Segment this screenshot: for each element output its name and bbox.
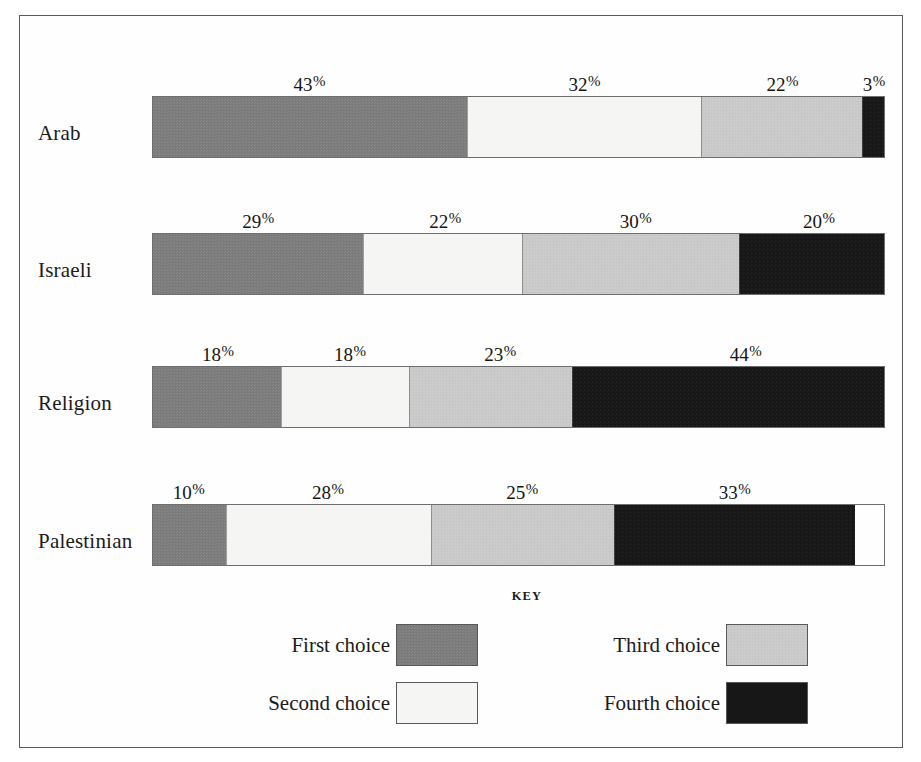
- bar-segment: [153, 505, 226, 565]
- segment-value-label: 30%: [620, 207, 652, 233]
- legend-color-swatch: [726, 682, 808, 724]
- segment-value-number: 25: [506, 482, 525, 503]
- percent-sign: %: [873, 73, 886, 89]
- segment-divider: [739, 234, 740, 294]
- bar-row-label: Religion: [38, 390, 148, 416]
- bar-segment: [153, 97, 467, 157]
- segment-value-number: 18: [202, 344, 221, 365]
- legend-item[interactable]: Third choice: [0, 624, 921, 666]
- percent-sign: %: [738, 481, 751, 497]
- chart-figure: Arab43%32%22%3%Israeli29%22%30%20%Religi…: [0, 0, 921, 762]
- bar-segment: [431, 505, 614, 565]
- legend-color-swatch: [726, 624, 808, 666]
- segment-value-number: 3: [863, 74, 873, 95]
- segment-value-label: 25%: [506, 478, 538, 504]
- percent-sign: %: [192, 481, 205, 497]
- segment-value-number: 18: [334, 344, 353, 365]
- segment-value-number: 30: [620, 211, 639, 232]
- segment-value-label: 3%: [863, 70, 886, 96]
- segment-divider: [409, 367, 410, 427]
- segment-divider: [467, 97, 468, 157]
- percent-sign: %: [262, 210, 275, 226]
- legend-item-label: Third choice: [613, 631, 720, 659]
- value-label-layer: 18%18%23%44%: [152, 340, 885, 368]
- segment-value-label: 22%: [429, 207, 461, 233]
- segment-value-label: 23%: [484, 340, 516, 366]
- segment-value-number: 44: [730, 344, 749, 365]
- percent-sign: %: [823, 210, 836, 226]
- percent-sign: %: [353, 343, 366, 359]
- percent-sign: %: [504, 343, 517, 359]
- bar-row-label: Palestinian: [38, 528, 148, 554]
- percent-sign: %: [786, 73, 799, 89]
- stacked-bar: [152, 96, 885, 158]
- segment-divider: [572, 367, 573, 427]
- segment-value-number: 10: [173, 482, 192, 503]
- bar-segment: [363, 234, 522, 294]
- percent-sign: %: [526, 481, 539, 497]
- bar-segment: [153, 234, 363, 294]
- segment-value-label: 10%: [173, 478, 205, 504]
- value-label-layer: 29%22%30%20%: [152, 207, 885, 235]
- segment-value-label: 28%: [312, 478, 344, 504]
- segment-value-label: 32%: [568, 70, 600, 96]
- segment-value-number: 28: [312, 482, 331, 503]
- segment-value-label: 43%: [294, 70, 326, 96]
- segment-divider: [862, 97, 863, 157]
- segment-value-number: 29: [242, 211, 261, 232]
- bar-row-label: Israeli: [38, 257, 148, 283]
- bar-segment: [522, 234, 739, 294]
- bar-segment: [153, 367, 281, 427]
- bar-segment: [862, 97, 884, 157]
- segment-divider: [614, 505, 615, 565]
- segment-divider: [701, 97, 702, 157]
- bar-row-label: Arab: [38, 120, 148, 146]
- stacked-bar: [152, 366, 885, 428]
- segment-value-label: 18%: [202, 340, 234, 366]
- segment-value-label: 22%: [766, 70, 798, 96]
- bar-segment: [572, 367, 884, 427]
- percent-sign: %: [313, 73, 326, 89]
- stacked-bar: [152, 233, 885, 295]
- segment-value-number: 22: [766, 74, 785, 95]
- key-title: KEY: [487, 589, 567, 604]
- legend-item-label: Fourth choice: [604, 689, 720, 717]
- bar-segment: [226, 505, 431, 565]
- legend-item[interactable]: Fourth choice: [0, 682, 921, 724]
- segment-divider: [226, 505, 227, 565]
- stacked-bar: [152, 504, 885, 566]
- segment-value-label: 33%: [719, 478, 751, 504]
- segment-value-label: 18%: [334, 340, 366, 366]
- segment-value-number: 32: [568, 74, 587, 95]
- segment-value-label: 29%: [242, 207, 274, 233]
- segment-value-label: 20%: [803, 207, 835, 233]
- bar-segment: [467, 97, 701, 157]
- segment-value-number: 22: [429, 211, 448, 232]
- percent-sign: %: [221, 343, 234, 359]
- segment-value-number: 20: [803, 211, 822, 232]
- bar-segment: [701, 97, 862, 157]
- segment-value-label: 44%: [730, 340, 762, 366]
- percent-sign: %: [331, 481, 344, 497]
- percent-sign: %: [639, 210, 652, 226]
- bar-segment: [409, 367, 572, 427]
- bar-segment: [614, 505, 855, 565]
- percent-sign: %: [749, 343, 762, 359]
- segment-divider: [431, 505, 432, 565]
- bar-segment: [281, 367, 409, 427]
- bar-segment: [739, 234, 884, 294]
- percent-sign: %: [449, 210, 462, 226]
- segment-divider: [281, 367, 282, 427]
- segment-value-number: 23: [484, 344, 503, 365]
- value-label-layer: 10%28%25%33%: [152, 478, 885, 506]
- segment-value-number: 33: [719, 482, 738, 503]
- segment-divider: [363, 234, 364, 294]
- segment-value-number: 43: [294, 74, 313, 95]
- value-label-layer: 43%32%22%3%: [152, 70, 885, 98]
- percent-sign: %: [588, 73, 601, 89]
- segment-divider: [522, 234, 523, 294]
